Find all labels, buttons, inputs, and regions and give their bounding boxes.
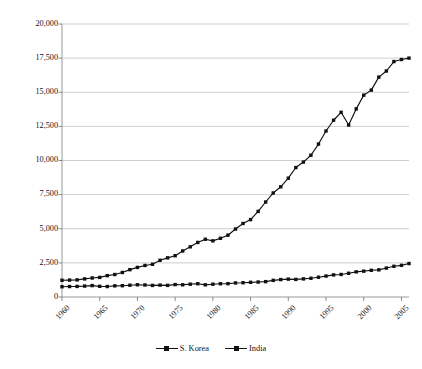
x-axis-tick-label: 1975	[158, 304, 185, 331]
x-axis-tick-label: 1980	[196, 304, 223, 331]
legend-entry[interactable]: S. Korea	[156, 344, 209, 353]
x-axis-tick-label: 1970	[120, 304, 147, 331]
x-axis-tick-label: 1995	[309, 304, 336, 331]
x-axis-tick-labels: 1960196519701975198019851990199520002005	[0, 0, 422, 369]
legend-label: S. Korea	[180, 344, 209, 353]
legend-marker-icon	[225, 344, 247, 353]
x-axis-tick-label: 1960	[45, 304, 72, 331]
x-axis-tick-label: 1965	[82, 304, 109, 331]
x-axis-tick-label: 2000	[347, 304, 374, 331]
x-axis-tick-label: 1985	[233, 304, 260, 331]
chart-container: Per Capita GDP in 1990 Int'l. Geary-Kham…	[0, 0, 422, 369]
x-axis-tick-label: 2005	[384, 304, 411, 331]
legend-label: India	[249, 344, 266, 353]
legend-marker-icon	[156, 344, 178, 353]
chart-legend: S. KoreaIndia	[0, 340, 422, 356]
legend-entry[interactable]: India	[225, 344, 266, 353]
x-axis-tick-label: 1990	[271, 304, 298, 331]
